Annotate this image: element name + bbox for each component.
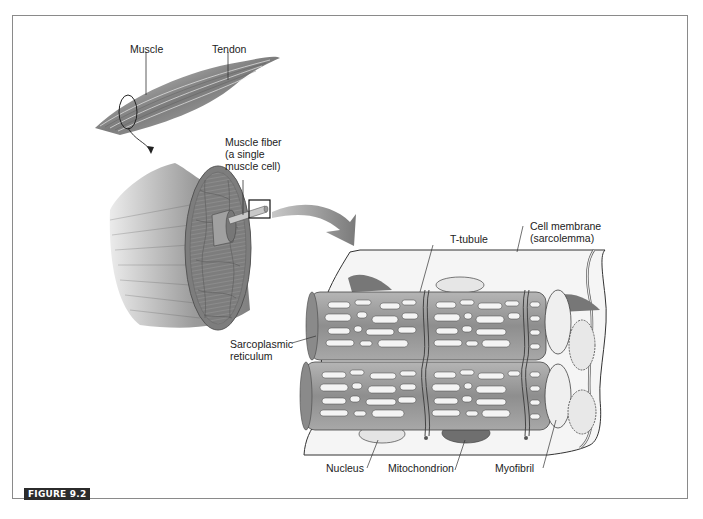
label-mitochondrion: Mitochondrion [388, 462, 454, 474]
muscle-cross-section-drawing [110, 163, 268, 330]
label-muscle: Muscle [130, 43, 163, 55]
magnify-arrow-icon [272, 205, 356, 246]
label-myofibril: Myofibril [495, 462, 534, 474]
label-sarcoplasmic-reticulum: Sarcoplasmic reticulum [230, 338, 293, 362]
label-muscle-fiber: Muscle fiber (a single muscle cell) [225, 136, 282, 172]
label-nucleus: Nucleus [326, 462, 364, 474]
muscle-fiber-detail-drawing [300, 250, 606, 455]
label-tendon: Tendon [212, 43, 246, 55]
muscle-anatomy-illustration [0, 0, 703, 519]
label-cell-membrane: Cell membrane (sarcolemma) [530, 220, 601, 244]
figure-number-badge: FIGURE 9.2 [24, 488, 90, 500]
label-t-tubule: T-tubule [450, 233, 488, 245]
